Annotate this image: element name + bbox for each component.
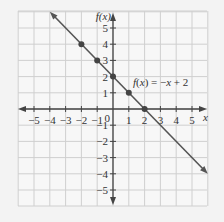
y-tick-label: 5 [103,22,109,34]
x-tick-label: −3 [60,114,72,126]
y-axis-label: f(x) [96,10,112,23]
function-graph: −5−4−3−2−112345 54321−1−2−3−4−5 0 x f(x)… [0,0,224,222]
y-tick-label: 4 [103,38,109,50]
x-tick-label: 4 [173,114,179,126]
x-tick-label: −4 [44,114,56,126]
origin-label: 0 [105,112,111,124]
data-point [142,106,148,112]
x-tick-label: 2 [142,114,148,126]
data-point [78,41,84,47]
y-tick-label: −4 [96,168,108,180]
y-tick-label: 2 [103,71,109,83]
x-tick-label: −2 [76,114,88,126]
data-point [110,74,116,80]
x-tick-label: −5 [28,114,40,126]
x-tick-label: 5 [189,114,195,126]
x-tick-label: 1 [126,114,132,126]
y-tick-label: 1 [103,87,109,99]
y-tick-label: −2 [96,135,108,147]
data-point [126,90,132,96]
x-axis-label: x [202,111,208,123]
y-tick-label: −3 [96,152,108,164]
data-point [94,57,100,63]
equation-label: f(x) = −x + 2 [133,76,188,89]
y-tick-label: −5 [96,184,108,196]
y-tick-label: 3 [103,54,109,66]
